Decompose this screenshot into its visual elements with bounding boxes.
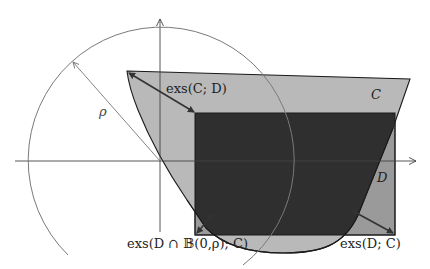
exs-D-ball-C-label: exs(D ∩ 𝔹(0,ρ); C) [127,237,248,250]
exs-D-C-label: exs(D; C) [340,237,401,250]
exs-C-D-label: exs(C; D) [166,82,227,95]
excess-diagram [0,0,430,269]
rho-label: ρ [99,105,107,118]
set-C-label: C [371,88,381,101]
set-D-label: D [377,171,387,184]
